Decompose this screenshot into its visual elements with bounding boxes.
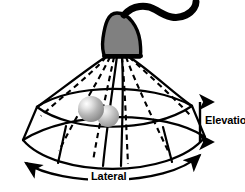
probe-head-body (103, 13, 141, 57)
diagram-canvas (0, 0, 245, 192)
lateral-label: Lateral (88, 170, 129, 182)
scan-volume-center-plane-right (121, 57, 123, 166)
target-spheres-group (78, 96, 119, 127)
target-sphere-large (78, 96, 104, 122)
scan-volume-bottom-arc (23, 137, 205, 169)
probe-cable (124, 2, 196, 17)
scan-volume-facet-right (163, 127, 172, 162)
elevation-label: Elevation (205, 114, 245, 126)
ultrasound-scan-volume-figure: Elevation Lateral (0, 0, 245, 192)
transducer-probe-head (103, 13, 141, 57)
